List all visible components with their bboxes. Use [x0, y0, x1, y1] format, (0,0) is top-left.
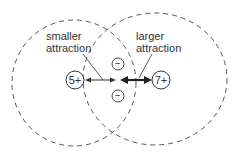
smaller-attraction-label: smaller attraction [46, 30, 91, 54]
smaller-attraction-pointer [83, 54, 103, 80]
larger-label-line2: attraction [136, 42, 181, 54]
arrowhead-left-large [120, 76, 128, 84]
electron-bottom-sign: − [112, 90, 124, 102]
nucleus-5-label: 5+ [66, 74, 84, 86]
larger-attraction-pointer [139, 54, 152, 78]
electron-top-sign: − [112, 58, 124, 70]
bonding-diagram [0, 0, 233, 152]
nucleus-7-label: 7+ [152, 74, 170, 86]
larger-label-line1: larger [136, 30, 181, 42]
larger-attraction-label: larger attraction [136, 30, 181, 54]
smaller-label-line2: attraction [46, 42, 91, 54]
smaller-label-line1: smaller [46, 30, 91, 42]
arrowhead-right-large [144, 76, 152, 84]
arrowhead-left [85, 78, 91, 83]
arrowhead-right-small [110, 78, 116, 83]
